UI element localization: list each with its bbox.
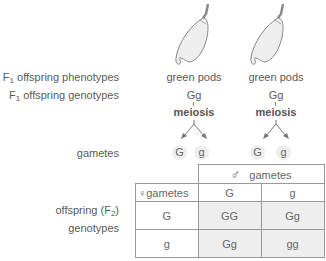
split-arrows-icon [260,120,292,142]
parent2-phenotype: green pods [242,71,310,83]
parent2-genotype: Gg [242,89,310,101]
table-row: G GG Gg [136,202,325,230]
offspring-cell: gg [261,230,324,258]
punnett-square: ♂ gametes ♀gametes G g G GG Gg g Gg gg [135,164,325,258]
column-header: g [261,184,324,202]
f2-genotypes-label: offspring (F2) genotypes [55,203,119,235]
male-symbol-icon: ♂ [230,167,240,182]
parent1-phenotype: green pods [160,71,228,83]
parent1-meiosis: meiosis [160,106,228,118]
row-header: g [136,230,199,258]
parent2-meiosis: meiosis [242,106,310,118]
gametes-label: gametes [77,147,119,159]
pea-pod-icon-right [245,2,295,72]
f1-genotypes-label: F1 offspring genotypes [9,89,119,103]
row-header: G [136,202,199,230]
gamete-G: G [172,145,187,160]
gamete-g: g [194,145,209,160]
offspring-cell: Gg [261,202,324,230]
gamete-g: g [276,145,291,160]
offspring-cell: Gg [198,230,261,258]
split-arrows-icon [178,120,210,142]
table-row: g Gg gg [136,230,325,258]
gamete-G: G [250,145,265,160]
female-symbol-icon: ♀ [138,187,146,199]
female-gametes-header: ♀gametes [136,184,199,202]
parent1-genotype: Gg [160,89,228,101]
male-gametes-header: ♂ gametes [198,165,324,184]
f1-phenotypes-label: F1 offspring phenotypes [3,71,119,85]
column-header: G [198,184,261,202]
offspring-cell: GG [198,202,261,230]
pea-pod-icon-left [170,2,220,72]
